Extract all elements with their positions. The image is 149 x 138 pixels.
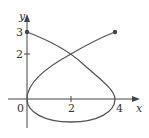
- parametric-curve-figure: y x 0 2 4 2 3: [0, 0, 149, 138]
- end-point-dot: [113, 30, 117, 34]
- x-tick-label-2: 2: [68, 102, 75, 115]
- x-axis-label: x: [136, 102, 143, 115]
- y-tick-label-2: 2: [16, 48, 23, 61]
- plot-canvas: y x 0 2 4 2 3: [0, 0, 149, 138]
- y-axis-label: y: [18, 10, 26, 23]
- origin-label: 0: [17, 102, 24, 115]
- y-tick-label-3: 3: [16, 26, 23, 39]
- x-tick-label-4: 4: [116, 102, 123, 115]
- start-point-dot: [25, 30, 29, 34]
